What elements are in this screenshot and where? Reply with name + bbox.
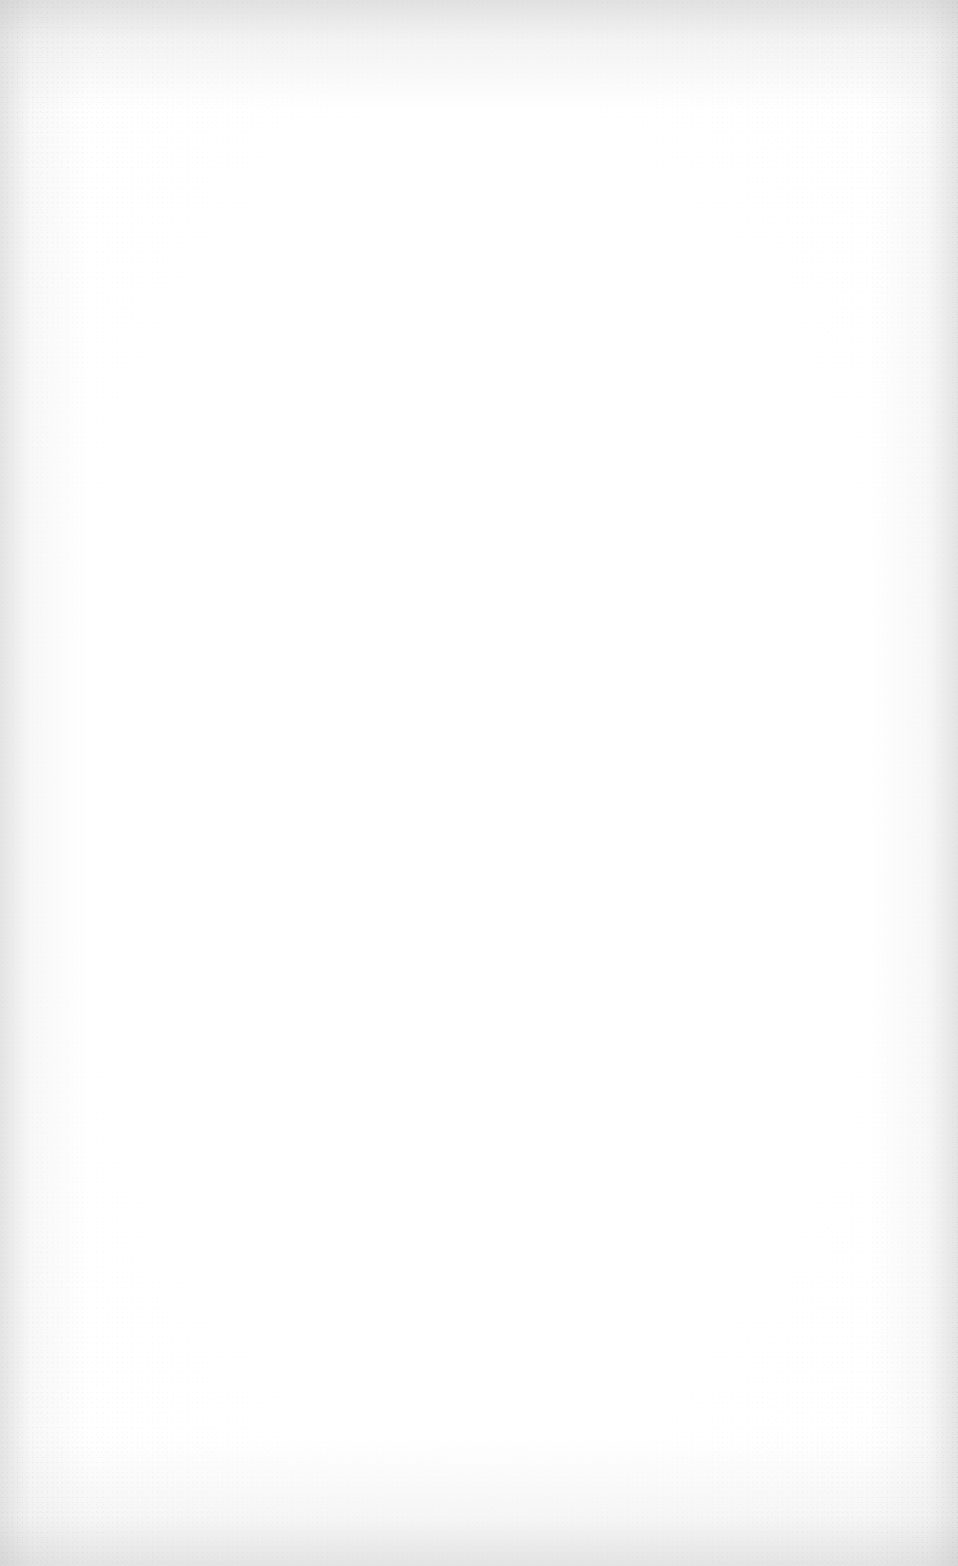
blank-page xyxy=(0,0,958,1566)
page-content xyxy=(0,0,958,1566)
